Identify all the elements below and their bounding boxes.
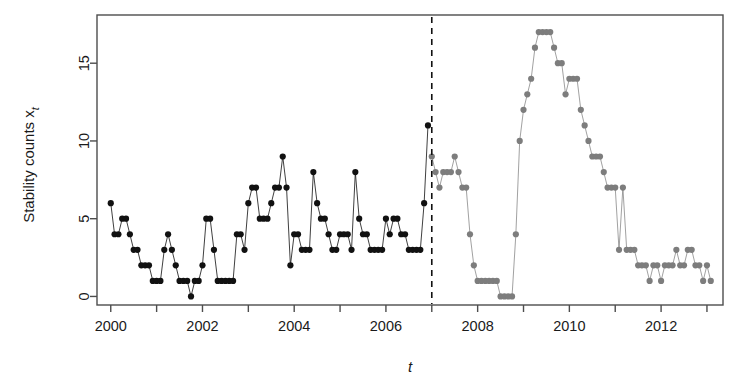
x-tick-label: 2010 xyxy=(553,318,585,334)
stability-counts-scatter-plot: 051015 2000200220042006200820102012 Stab… xyxy=(0,0,752,391)
data-point-observed xyxy=(146,262,152,268)
data-point-forecast xyxy=(532,45,538,51)
data-point-observed xyxy=(108,200,114,206)
data-point-forecast xyxy=(704,262,710,268)
data-point-observed xyxy=(199,262,205,268)
data-point-forecast xyxy=(524,91,530,97)
data-point-forecast xyxy=(669,262,675,268)
data-point-forecast xyxy=(654,262,660,268)
data-point-forecast xyxy=(585,138,591,144)
data-point-observed xyxy=(264,216,270,222)
y-tick-label: 5 xyxy=(76,215,92,223)
data-point-observed xyxy=(157,278,163,284)
data-point-observed xyxy=(123,216,129,222)
data-point-observed xyxy=(253,185,259,191)
data-point-forecast xyxy=(463,185,469,191)
data-point-forecast xyxy=(509,293,515,299)
data-point-forecast xyxy=(455,169,461,175)
data-point-observed xyxy=(280,153,286,159)
data-point-forecast xyxy=(616,247,622,253)
data-point-forecast xyxy=(547,29,553,35)
plot-frame xyxy=(97,15,723,305)
data-point-observed xyxy=(245,200,251,206)
data-point-observed xyxy=(306,247,312,253)
data-point-observed xyxy=(322,216,328,222)
data-point-observed xyxy=(238,231,244,237)
data-point-observed xyxy=(207,216,213,222)
series-line-observed xyxy=(111,125,428,296)
data-point-forecast xyxy=(452,153,458,159)
data-point-observed xyxy=(352,169,358,175)
data-point-forecast xyxy=(631,247,637,253)
data-point-observed xyxy=(169,247,175,253)
data-point-forecast xyxy=(681,262,687,268)
data-point-forecast xyxy=(689,247,695,253)
y-axis-title-subscript: t xyxy=(29,106,41,110)
y-axis-title-main: Stability counts x xyxy=(20,110,37,223)
data-point-forecast xyxy=(582,122,588,128)
data-point-forecast xyxy=(471,262,477,268)
data-point-forecast xyxy=(517,138,523,144)
data-point-forecast xyxy=(432,169,438,175)
data-point-observed xyxy=(127,231,133,237)
data-point-observed xyxy=(425,122,431,128)
x-axis-title: t xyxy=(408,358,413,375)
data-point-forecast xyxy=(574,76,580,82)
data-point-observed xyxy=(310,169,316,175)
data-point-observed xyxy=(348,247,354,253)
data-point-observed xyxy=(211,247,217,253)
data-point-observed xyxy=(402,231,408,237)
y-tick-label: 15 xyxy=(76,55,92,71)
x-tick-label: 2006 xyxy=(370,318,402,334)
data-point-observed xyxy=(387,231,393,237)
data-point-observed xyxy=(230,278,236,284)
data-point-observed xyxy=(295,231,301,237)
data-point-observed xyxy=(326,231,332,237)
data-point-forecast xyxy=(578,107,584,113)
data-point-forecast xyxy=(520,107,526,113)
data-point-forecast xyxy=(643,262,649,268)
x-axis: 2000200220042006200820102012 xyxy=(95,305,707,334)
data-point-forecast xyxy=(612,185,618,191)
data-point-observed xyxy=(364,231,370,237)
y-axis: 051015 xyxy=(76,55,97,300)
data-point-forecast xyxy=(696,262,702,268)
data-point-forecast xyxy=(467,231,473,237)
data-point-observed xyxy=(345,231,351,237)
data-point-observed xyxy=(134,247,140,253)
data-point-observed xyxy=(184,278,190,284)
data-point-forecast xyxy=(494,278,500,284)
series-connecting-lines xyxy=(111,32,711,296)
data-point-forecast xyxy=(448,169,454,175)
x-tick-label: 2002 xyxy=(186,318,218,334)
y-tick-label: 0 xyxy=(76,292,92,300)
x-tick-label: 2012 xyxy=(645,318,677,334)
data-point-observed xyxy=(394,216,400,222)
data-point-observed xyxy=(196,278,202,284)
data-point-forecast xyxy=(436,185,442,191)
data-point-forecast xyxy=(559,60,565,66)
data-point-observed xyxy=(421,200,427,206)
series-line-forecast xyxy=(432,32,711,296)
data-point-forecast xyxy=(647,278,653,284)
data-point-observed xyxy=(241,247,247,253)
y-axis-title: Stability counts xt xyxy=(20,106,41,223)
data-point-forecast xyxy=(658,278,664,284)
chart-figure: 051015 2000200220042006200820102012 Stab… xyxy=(0,0,752,391)
data-point-observed xyxy=(283,185,289,191)
data-point-observed xyxy=(379,247,385,253)
data-point-observed xyxy=(383,216,389,222)
data-point-forecast xyxy=(551,45,557,51)
data-point-forecast xyxy=(700,278,706,284)
data-point-observed xyxy=(188,293,194,299)
y-tick-label: 10 xyxy=(76,133,92,149)
x-tick-label: 2004 xyxy=(278,318,310,334)
data-point-forecast xyxy=(620,185,626,191)
x-tick-label: 2008 xyxy=(462,318,494,334)
data-point-forecast xyxy=(528,76,534,82)
data-point-observed xyxy=(287,262,293,268)
data-point-observed xyxy=(356,216,362,222)
data-point-observed xyxy=(268,200,274,206)
data-point-observed xyxy=(161,247,167,253)
data-point-forecast xyxy=(513,231,519,237)
